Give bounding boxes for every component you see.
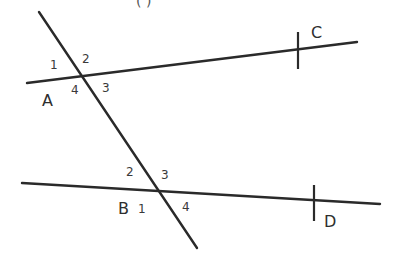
line-bd <box>22 183 380 204</box>
cropped-heading-text: ( ) <box>136 0 151 9</box>
angle-label-b4: 4 <box>182 200 190 214</box>
line-ac <box>27 42 357 83</box>
angle-label-b3: 3 <box>161 168 169 182</box>
angle-label-b1: 1 <box>138 202 146 216</box>
point-label-b: B <box>118 199 129 218</box>
angle-label-a3: 3 <box>102 81 110 95</box>
point-label-c: C <box>311 23 322 42</box>
parallel-lines-transversal-diagram: ( ) A C B D 1 2 3 4 1 2 3 4 <box>0 0 404 257</box>
angle-label-a1: 1 <box>50 58 58 72</box>
angle-label-a4: 4 <box>71 83 79 97</box>
angle-label-b2: 2 <box>126 165 134 179</box>
point-label-d: D <box>324 212 336 231</box>
angle-label-a2: 2 <box>82 52 90 66</box>
point-label-a: A <box>42 91 53 110</box>
